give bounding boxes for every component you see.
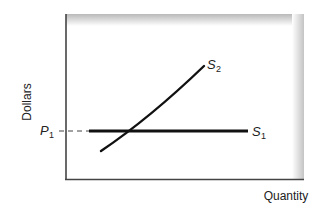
svg-text:1: 1 — [261, 131, 266, 141]
svg-text:S: S — [207, 57, 216, 72]
panel-right-shadow — [292, 14, 304, 179]
s1-label: S 1 — [252, 124, 266, 141]
panel-top-shadow — [66, 14, 304, 26]
s2-curve — [101, 66, 204, 151]
s2-label: S 2 — [207, 57, 221, 74]
y-axis-label: Dollars — [20, 83, 34, 120]
supply-chart: Dollars Quantity P 1 S 1 S 2 — [0, 0, 322, 211]
p1-tick-label: P 1 — [40, 123, 54, 140]
svg-text:P: P — [40, 123, 49, 138]
svg-text:1: 1 — [49, 130, 54, 140]
x-axis-label: Quantity — [264, 189, 309, 203]
svg-text:S: S — [252, 124, 261, 139]
svg-text:2: 2 — [216, 64, 221, 74]
